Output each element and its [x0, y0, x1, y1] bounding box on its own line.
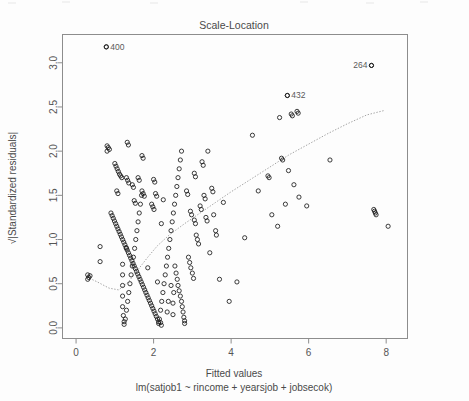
- x-tick-label: 0: [73, 347, 79, 358]
- model-formula-label: lm(satjob1 ~ rincome + yearsjob + jobsec…: [136, 382, 332, 393]
- y-tick-label: 2.5: [48, 100, 59, 114]
- x-tick-label: 6: [306, 347, 312, 358]
- y-tick-label: 1.0: [48, 232, 59, 246]
- chart-title: Scale-Location: [199, 19, 269, 31]
- y-tick-label: 3.0: [48, 55, 59, 69]
- x-tick-label: 4: [228, 347, 234, 358]
- y-tick-label: 2.0: [48, 144, 59, 158]
- scan-artifact-band: [0, 0, 469, 401]
- data-point-label: 264: [353, 60, 367, 70]
- scale-location-plot-root: Scale-Location 02468 0.00.51.01.52.02.53…: [0, 0, 469, 401]
- x-tick-label: 2: [151, 347, 157, 358]
- y-tick-label: 0.0: [48, 321, 59, 335]
- data-point-label: 400: [110, 42, 124, 52]
- x-axis-label: Fitted values: [206, 368, 263, 379]
- y-axis-label: √|Standardized residuals|: [7, 132, 18, 244]
- x-tick-label: 8: [383, 347, 389, 358]
- data-point-label: 432: [291, 90, 305, 100]
- y-tick-label: 0.5: [48, 276, 59, 290]
- y-tick-label: 1.5: [48, 188, 59, 202]
- chart-canvas: Scale-Location 02468 0.00.51.01.52.02.53…: [0, 0, 469, 401]
